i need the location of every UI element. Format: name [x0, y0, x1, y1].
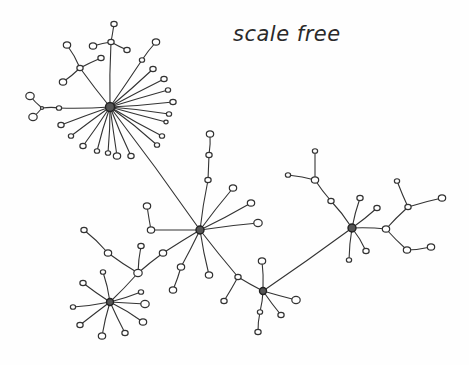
network-node: [154, 143, 159, 148]
network-node: [124, 47, 130, 52]
network-node: [247, 200, 254, 206]
network-node: [94, 149, 99, 154]
network-node: [166, 112, 171, 117]
network-node: [70, 305, 75, 310]
network-edge: [208, 155, 209, 180]
network-edge: [200, 230, 238, 277]
network-edge: [108, 253, 138, 273]
network-edge: [110, 302, 145, 304]
network-node: [147, 227, 154, 233]
network-edge: [263, 228, 352, 291]
network-edge: [408, 198, 442, 207]
network-node: [161, 76, 167, 81]
hub-node: [348, 224, 356, 232]
hub-node: [106, 103, 115, 112]
network-edge: [138, 253, 163, 273]
network-node: [128, 153, 134, 158]
network-node: [143, 203, 150, 209]
network-node: [77, 65, 83, 70]
network-edges: [30, 24, 442, 336]
network-edge: [110, 302, 125, 333]
network-node: [205, 177, 211, 182]
network-node: [403, 247, 410, 253]
network-node: [206, 131, 213, 137]
network-node: [382, 226, 389, 232]
network-node: [108, 39, 114, 44]
network-edge: [352, 228, 386, 229]
network-node: [141, 300, 149, 307]
network-edge: [80, 68, 110, 107]
network-edge: [262, 261, 263, 291]
network-node: [122, 330, 128, 335]
network-node: [221, 298, 227, 303]
network-edge: [200, 230, 209, 275]
network-node: [255, 329, 261, 334]
network-node: [292, 296, 300, 303]
network-edge: [397, 181, 408, 207]
network-edge: [61, 107, 110, 125]
network-node: [89, 43, 96, 49]
network-edge: [331, 201, 352, 228]
network-node: [312, 149, 317, 154]
network-node: [68, 134, 73, 139]
network-node: [254, 219, 262, 226]
network-edge: [200, 180, 208, 230]
network-node: [56, 106, 61, 111]
network-node: [229, 185, 236, 191]
network-node: [363, 248, 369, 253]
network-node: [159, 250, 166, 256]
network-node: [405, 204, 411, 209]
network-node: [170, 99, 176, 104]
network-node: [164, 120, 168, 124]
network-edge: [349, 228, 352, 260]
network-node: [169, 287, 176, 293]
network-node: [81, 227, 87, 232]
network-node: [105, 151, 110, 156]
network-edge: [200, 223, 258, 230]
network-node: [152, 39, 159, 45]
network-node: [138, 290, 143, 295]
hub-node: [196, 226, 204, 234]
network-node: [394, 179, 399, 184]
network-node: [40, 107, 43, 110]
network-node: [205, 272, 212, 278]
network-node: [100, 270, 105, 275]
network-node: [104, 250, 111, 256]
network-node: [206, 152, 212, 157]
network-node: [138, 243, 144, 248]
network-node: [235, 274, 241, 279]
network-node: [63, 42, 70, 48]
network-edge: [84, 230, 108, 253]
network-node: [139, 58, 144, 63]
network-node: [59, 79, 66, 85]
network-edge: [110, 90, 168, 107]
network-node: [80, 143, 86, 148]
network-node: [29, 113, 37, 120]
network-node: [98, 333, 105, 339]
network-node: [77, 322, 83, 327]
network-edge: [108, 107, 110, 153]
network-edge: [386, 229, 407, 250]
network-edge: [110, 107, 200, 230]
network-node: [278, 312, 284, 317]
network-node: [150, 66, 156, 71]
network-node: [165, 88, 170, 93]
network-node: [139, 319, 146, 325]
network-edge: [97, 107, 110, 151]
network-node: [438, 195, 445, 201]
network-node: [26, 92, 34, 99]
network-node: [285, 173, 290, 178]
network-edge: [238, 277, 263, 291]
network-edge: [110, 42, 111, 107]
hub-node: [107, 299, 114, 306]
network-sketch-canvas: scale free: [0, 0, 469, 365]
network-node: [58, 122, 64, 127]
hub-node: [260, 288, 267, 295]
network-node: [374, 205, 380, 210]
network-node: [346, 258, 351, 263]
network-node: [177, 264, 184, 270]
scale-free-network-graph: [0, 0, 469, 365]
network-edge: [263, 291, 281, 315]
network-edge: [59, 107, 110, 108]
network-edge: [224, 277, 238, 301]
